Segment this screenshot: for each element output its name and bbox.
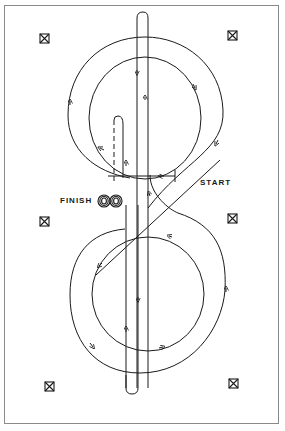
- bottom-left-marker-icon: [45, 382, 54, 391]
- finish-hook-path: [114, 116, 123, 178]
- top-right-marker-icon: [228, 31, 237, 40]
- finish-label: FINISH: [60, 196, 92, 205]
- bottom-right-marker-icon: [229, 379, 238, 388]
- top-left-marker-icon: [40, 34, 49, 43]
- center-lane: [137, 12, 148, 388]
- upper-inner-loop: [89, 57, 201, 179]
- start-label: START: [200, 178, 231, 187]
- middle-left-marker-icon: [40, 217, 49, 226]
- figure-eight-diagram: [0, 0, 285, 431]
- finish-cones-icon: [98, 195, 122, 207]
- middle-right-marker-icon: [228, 214, 237, 223]
- center-lane-bottom-cap: [126, 375, 138, 394]
